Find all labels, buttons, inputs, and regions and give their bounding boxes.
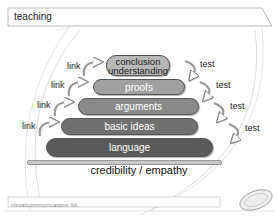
link-arrow-icon bbox=[69, 82, 83, 96]
link-arrow-icon bbox=[55, 102, 69, 116]
link-arrow-icon bbox=[84, 62, 98, 76]
test-arrow-icon bbox=[229, 124, 238, 140]
arrows-layer bbox=[0, 0, 278, 220]
test-arrow-icon bbox=[200, 82, 209, 98]
link-arrow-icon bbox=[40, 122, 54, 136]
test-arrow-icon bbox=[214, 103, 223, 119]
company-name: visualcommunications ltd bbox=[11, 202, 77, 208]
test-arrow-icon bbox=[185, 61, 195, 77]
